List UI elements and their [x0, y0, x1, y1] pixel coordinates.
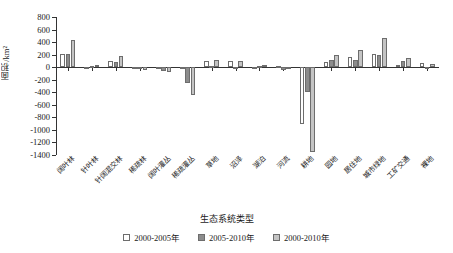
y-axis-tick-label: 600	[37, 25, 50, 34]
bar	[156, 67, 161, 69]
bar	[214, 60, 219, 68]
bar	[353, 60, 358, 67]
bar	[334, 55, 339, 67]
legend-item: 2000-2010年	[273, 231, 330, 243]
y-axis-tick	[52, 130, 56, 131]
bar	[204, 61, 209, 67]
bar	[310, 67, 315, 152]
y-axis-tick	[52, 92, 56, 93]
bar	[406, 58, 411, 67]
plot-area: 8006004002000-200-400-600-800-1000-1200-…	[56, 17, 439, 155]
bar	[84, 67, 89, 69]
bar-chart: 面积/km² 8006004002000-200-400-600-800-100…	[0, 0, 453, 253]
y-axis-tick-label: -400	[34, 88, 50, 97]
y-axis-tick	[52, 17, 56, 18]
bar	[300, 67, 305, 123]
bar	[257, 66, 262, 68]
y-axis-tick-label: -800	[34, 113, 50, 122]
x-axis-tick-labels: 阔叶林针叶林针阔混交林稀疏林阔叶灌丛稀疏灌丛草地沼泽湖泊河流耕地园地居住地城市绿…	[56, 155, 439, 213]
bar	[161, 67, 166, 71]
bar	[209, 66, 214, 68]
x-axis-tick	[403, 67, 404, 71]
y-axis-tick-label: -600	[34, 101, 50, 110]
bar	[95, 65, 100, 67]
bar	[401, 61, 406, 68]
x-axis-tick	[116, 67, 117, 71]
legend-item: 2005-2010年	[198, 231, 255, 243]
bar	[167, 67, 172, 72]
y-axis-tick	[52, 105, 56, 106]
bar	[114, 62, 119, 67]
bar	[119, 56, 124, 67]
legend-label: 2005-2010年	[209, 231, 255, 243]
bar	[252, 67, 257, 69]
bar	[372, 54, 377, 67]
legend-swatch	[273, 234, 280, 241]
y-axis-tick	[52, 117, 56, 118]
bar	[66, 54, 71, 67]
y-axis-tick-label: 800	[37, 13, 50, 21]
bar	[191, 67, 196, 95]
y-axis-tick	[52, 55, 56, 56]
y-axis-title: 面积/km²	[2, 46, 16, 80]
x-axis-tick	[331, 67, 332, 71]
bar	[382, 38, 387, 67]
bar	[305, 67, 310, 92]
bar	[425, 67, 430, 69]
legend-swatch	[198, 234, 205, 241]
y-axis-tick-label: 0	[46, 63, 50, 72]
bar	[286, 67, 291, 69]
bar	[348, 57, 353, 67]
x-axis-tick	[355, 67, 356, 71]
x-axis-tick	[92, 67, 93, 71]
bar	[180, 67, 185, 69]
bar	[228, 61, 233, 67]
bar	[329, 60, 334, 68]
y-axis-tick-label: -1200	[30, 138, 50, 147]
bar	[137, 67, 142, 69]
bar	[233, 67, 238, 69]
bar	[132, 67, 137, 69]
legend-item: 2000-2005年	[123, 231, 180, 243]
bar	[430, 64, 435, 67]
bar	[377, 55, 382, 68]
bar	[90, 66, 95, 68]
y-axis-tick-label: 200	[37, 50, 50, 59]
legend-swatch	[123, 234, 130, 241]
x-axis-title: 生态系统类型	[0, 212, 453, 225]
bar	[185, 67, 190, 83]
y-axis-tick-label: -200	[34, 76, 50, 85]
x-axis-tick	[379, 67, 380, 71]
bar	[324, 62, 329, 67]
y-axis-tick	[52, 30, 56, 31]
bar	[71, 40, 76, 67]
bar	[358, 50, 363, 68]
bar	[276, 66, 281, 68]
x-axis-tick	[68, 67, 69, 71]
y-axis-tick	[52, 80, 56, 81]
y-axis-tick-label: -1400	[30, 151, 50, 160]
y-axis-tick-label: -1000	[30, 126, 50, 135]
y-axis-tick-label: 400	[37, 38, 50, 47]
bar	[396, 65, 401, 68]
bar	[143, 67, 148, 70]
bar	[420, 63, 425, 67]
y-axis-line	[56, 17, 57, 155]
legend-label: 2000-2010年	[284, 231, 330, 243]
bar	[60, 54, 65, 67]
x-axis-line	[56, 67, 439, 68]
bar	[262, 65, 267, 67]
bar	[281, 67, 286, 70]
bar	[108, 61, 113, 67]
bar	[238, 61, 243, 68]
legend-label: 2000-2005年	[134, 231, 180, 243]
y-axis-tick	[52, 142, 56, 143]
chart-legend: 2000-2005年2005-2010年2000-2010年	[0, 231, 453, 243]
y-axis-tick	[52, 42, 56, 43]
